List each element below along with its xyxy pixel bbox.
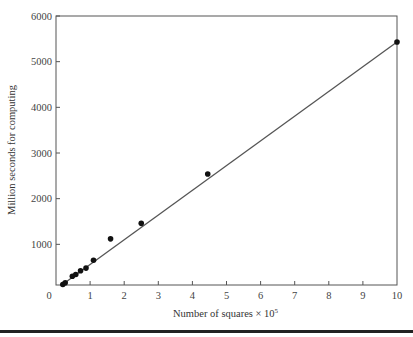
bottom-rule bbox=[0, 330, 413, 333]
data-point bbox=[78, 268, 84, 274]
fit-line bbox=[61, 42, 397, 285]
x-tick-label: 2 bbox=[122, 290, 127, 301]
data-point bbox=[138, 221, 144, 227]
plot-border bbox=[56, 16, 397, 285]
x-tick-label: 7 bbox=[292, 290, 297, 301]
x-tick-label: 6 bbox=[258, 290, 263, 301]
x-tick-label: 4 bbox=[190, 290, 196, 301]
x-tick-label: 9 bbox=[360, 290, 365, 301]
data-point bbox=[108, 236, 114, 242]
x-axis-title: Number of squares × 105 bbox=[173, 307, 279, 319]
y-tick-label: 6000 bbox=[31, 11, 52, 22]
x-tick-label: 8 bbox=[326, 290, 331, 301]
y-tick-label: 4000 bbox=[31, 102, 52, 113]
data-point bbox=[205, 171, 211, 177]
x-tick-label: 10 bbox=[392, 290, 403, 301]
plot-frame bbox=[56, 16, 397, 285]
data-point bbox=[91, 258, 97, 264]
data-point bbox=[83, 265, 89, 271]
x-tick-label: 5 bbox=[224, 290, 229, 301]
x-tick-label: 0 bbox=[46, 290, 51, 301]
scatter-chart: 100020003000400050006000 012345678910 Mi… bbox=[0, 0, 413, 337]
y-tick-label: 5000 bbox=[31, 56, 52, 67]
data-point bbox=[62, 280, 68, 286]
y-axis-title: Million seconds for computing bbox=[6, 84, 17, 215]
data-point bbox=[394, 39, 400, 45]
x-axis: 012345678910 bbox=[46, 281, 402, 301]
data-point bbox=[73, 272, 79, 278]
y-tick-label: 2000 bbox=[31, 193, 52, 204]
regression-line bbox=[61, 42, 397, 285]
y-tick-label: 3000 bbox=[31, 148, 52, 159]
x-tick-label: 3 bbox=[156, 290, 161, 301]
y-tick-label: 1000 bbox=[31, 239, 52, 250]
x-tick-label: 1 bbox=[87, 290, 92, 301]
